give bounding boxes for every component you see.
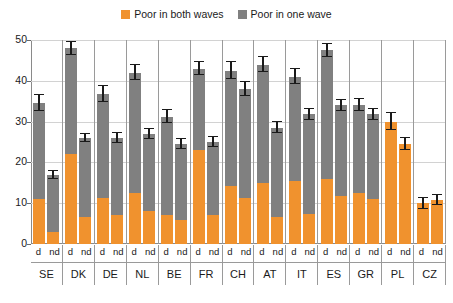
sub-label-group-es: dnd bbox=[318, 245, 350, 263]
bar-se-d[interactable] bbox=[33, 40, 45, 244]
sub-label-nd: nd bbox=[111, 245, 125, 258]
country-label: BE bbox=[167, 267, 182, 281]
bar-cz-nd[interactable] bbox=[431, 40, 443, 244]
sub-label-nd: nd bbox=[47, 245, 61, 258]
country-label: DE bbox=[103, 267, 118, 281]
error-bar-cap-top bbox=[258, 56, 268, 57]
legend-entry-poor-one: Poor in one wave bbox=[238, 9, 332, 20]
sub-label-row: dnddnddnddnddnddnddnddnddnddnddnddnddnd bbox=[31, 245, 446, 263]
bar-nl-d[interactable] bbox=[129, 40, 141, 244]
bar-segment-poor-both-waves bbox=[97, 198, 109, 244]
country-label: CZ bbox=[422, 267, 437, 281]
error-bar-cap-bottom bbox=[66, 54, 76, 55]
bar-segment-poor-one-wave bbox=[161, 117, 173, 215]
bar-at-d[interactable] bbox=[257, 40, 269, 244]
bar-segment-poor-both-waves bbox=[271, 217, 283, 244]
bar-segment-poor-one-wave bbox=[353, 105, 365, 193]
bar-segment-poor-both-waves bbox=[225, 186, 237, 244]
bar-es-d[interactable] bbox=[321, 40, 333, 244]
country-group-pl bbox=[382, 40, 414, 244]
error-bar-cap-bottom bbox=[322, 56, 332, 57]
bar-segment-poor-both-waves bbox=[399, 144, 411, 244]
bar-pl-d[interactable] bbox=[385, 40, 397, 244]
bar-pl-nd[interactable] bbox=[399, 40, 411, 244]
country-label: DK bbox=[71, 267, 86, 281]
country-group-de bbox=[95, 40, 127, 244]
bar-it-nd[interactable] bbox=[303, 40, 315, 244]
bar-segment-poor-both-waves bbox=[257, 183, 269, 244]
bar-ch-nd[interactable] bbox=[239, 40, 251, 244]
error-bar-cap-bottom bbox=[304, 119, 314, 120]
stacked-bar bbox=[129, 73, 141, 244]
error-bar bbox=[294, 69, 296, 84]
error-bar-cap-bottom bbox=[368, 119, 378, 120]
bar-segment-poor-both-waves bbox=[143, 211, 155, 244]
bar-at-nd[interactable] bbox=[271, 40, 283, 244]
bar-segment-poor-both-waves bbox=[353, 193, 365, 244]
error-bar bbox=[102, 86, 104, 102]
country-label-group-it: IT bbox=[286, 263, 318, 285]
error-bar-cap-top bbox=[144, 128, 154, 129]
bar-se-nd[interactable] bbox=[47, 40, 59, 244]
error-bar-cap-top bbox=[34, 94, 44, 95]
error-bar-cap-top bbox=[386, 112, 396, 113]
country-label: FR bbox=[199, 267, 214, 281]
error-bar-cap-bottom bbox=[290, 83, 300, 84]
error-bar-cap-top bbox=[176, 138, 186, 139]
error-bar-cap-bottom bbox=[240, 95, 250, 96]
bar-fr-nd[interactable] bbox=[207, 40, 219, 244]
stacked-bar bbox=[353, 105, 365, 244]
bar-segment-poor-both-waves bbox=[111, 215, 123, 244]
bar-fr-d[interactable] bbox=[193, 40, 205, 244]
error-bar-cap-bottom bbox=[80, 141, 90, 142]
stacked-bar bbox=[111, 138, 123, 244]
country-label-group-nl: NL bbox=[127, 263, 159, 285]
bar-segment-poor-both-waves bbox=[33, 199, 45, 244]
bar-gr-nd[interactable] bbox=[367, 40, 379, 244]
error-bar-cap-bottom bbox=[418, 208, 428, 209]
country-label-group-pl: PL bbox=[382, 263, 414, 285]
sub-label-nd: nd bbox=[239, 245, 253, 258]
bar-dk-d[interactable] bbox=[65, 40, 77, 244]
stacked-bar bbox=[161, 117, 173, 244]
bar-gr-d[interactable] bbox=[353, 40, 365, 244]
sub-label-nd: nd bbox=[367, 245, 381, 258]
error-bar-cap-top bbox=[162, 109, 172, 110]
bar-segment-poor-both-waves bbox=[175, 220, 187, 244]
error-bar-cap-bottom bbox=[354, 110, 364, 111]
sub-label-d: d bbox=[63, 245, 77, 258]
bar-de-nd[interactable] bbox=[111, 40, 123, 244]
stacked-bar bbox=[257, 64, 269, 244]
stacked-bar bbox=[431, 200, 443, 244]
legend-swatch-icon bbox=[121, 10, 130, 19]
bar-be-nd[interactable] bbox=[175, 40, 187, 244]
bar-segment-poor-one-wave bbox=[225, 71, 237, 186]
bar-segment-poor-one-wave bbox=[335, 105, 347, 196]
bar-dk-nd[interactable] bbox=[79, 40, 91, 244]
bar-ch-d[interactable] bbox=[225, 40, 237, 244]
bar-segment-poor-one-wave bbox=[79, 138, 91, 218]
sub-label-group-it: dnd bbox=[286, 245, 318, 263]
bar-it-d[interactable] bbox=[289, 40, 301, 244]
error-bar-cap-top bbox=[226, 61, 236, 62]
bar-cz-d[interactable] bbox=[417, 40, 429, 244]
bar-be-d[interactable] bbox=[161, 40, 173, 244]
error-bar bbox=[38, 95, 40, 111]
y-tick-label: 10 bbox=[6, 197, 27, 208]
error-bar-cap-bottom bbox=[336, 110, 346, 111]
error-bar-cap-top bbox=[98, 85, 108, 86]
bar-segment-poor-both-waves bbox=[239, 198, 251, 244]
sub-label-group-cz: dnd bbox=[414, 245, 446, 263]
sub-label-nd: nd bbox=[303, 245, 317, 258]
sub-label-nd: nd bbox=[207, 245, 221, 258]
bar-de-d[interactable] bbox=[97, 40, 109, 244]
sub-label-d: d bbox=[223, 245, 237, 258]
bar-segment-poor-both-waves bbox=[335, 196, 347, 244]
error-bar-cap-top bbox=[208, 136, 218, 137]
bar-nl-nd[interactable] bbox=[143, 40, 155, 244]
stacked-bar bbox=[417, 203, 429, 244]
bar-es-nd[interactable] bbox=[335, 40, 347, 244]
sub-label-d: d bbox=[287, 245, 301, 258]
plot-area bbox=[31, 40, 446, 244]
sub-label-group-fr: dnd bbox=[191, 245, 223, 263]
